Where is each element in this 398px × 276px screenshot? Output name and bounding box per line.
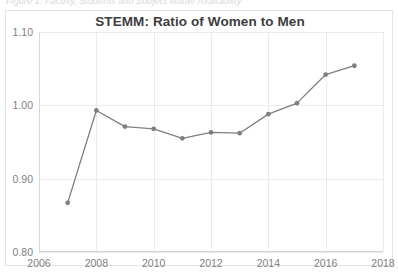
data-point-marker: 2007: 0.867 bbox=[65, 200, 70, 205]
x-tick-label: 2018 bbox=[371, 257, 394, 269]
y-tick-label: 1.00 bbox=[13, 99, 33, 111]
data-point-marker: 2010: 0.968 bbox=[151, 126, 156, 131]
chart-title: STEMM: Ratio of Women to Men bbox=[6, 14, 394, 29]
chart-page: Figure 1. Faculty, Students and Subject … bbox=[0, 0, 398, 276]
gridline-vertical bbox=[383, 32, 384, 252]
x-tick-label: 2010 bbox=[142, 257, 165, 269]
y-tick-label: 0.90 bbox=[13, 173, 33, 185]
y-tick-label: 1.10 bbox=[13, 26, 33, 38]
data-point-marker: 2012: 0.963 bbox=[209, 130, 214, 135]
data-point-marker: 2011: 0.955 bbox=[180, 136, 185, 141]
data-point-marker: 2008: 0.993 bbox=[94, 108, 99, 113]
document-caption-clipped: Figure 1. Faculty, Students and Subject … bbox=[6, 0, 306, 8]
data-point-marker: 2014: 0.988 bbox=[266, 112, 271, 117]
data-point-marker: 2013: 0.962 bbox=[237, 131, 242, 136]
chart-frame: STEMM: Ratio of Women to Men 0.800.901.0… bbox=[5, 10, 393, 266]
x-tick-label: 2006 bbox=[27, 257, 50, 269]
data-point-marker: 2009: 0.971 bbox=[123, 124, 128, 129]
x-tick-label: 2008 bbox=[85, 257, 108, 269]
plot-area: 0.800.901.001.10 20062008201020122014201… bbox=[39, 32, 383, 252]
data-point-marker: 2015: 1.003 bbox=[295, 101, 300, 106]
data-point-marker: 2016: 1.042 bbox=[323, 72, 328, 77]
x-tick-label: 2014 bbox=[257, 257, 280, 269]
data-point-marker: 2017: 1.054 bbox=[352, 63, 357, 68]
gridline-horizontal bbox=[39, 252, 383, 253]
data-series-line: 2007: 0.8672008: 0.9932009: 0.9712010: 0… bbox=[39, 32, 383, 252]
x-tick-label: 2016 bbox=[314, 257, 337, 269]
x-tick-label: 2012 bbox=[199, 257, 222, 269]
